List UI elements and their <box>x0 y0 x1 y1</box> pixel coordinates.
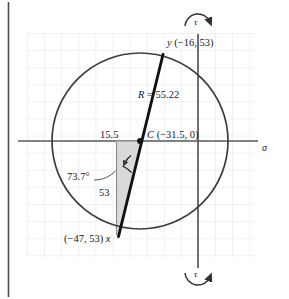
mohrs-circle-figure <box>0 0 289 299</box>
tau-label-top: τ <box>194 18 197 27</box>
angle-label: 73.7° <box>67 172 90 183</box>
radius-label: R = 55.22 <box>138 90 179 101</box>
tau-label-bottom: τ <box>194 270 197 279</box>
center-point <box>137 138 143 144</box>
tau-arrow-bottom <box>185 273 210 285</box>
sigma-axis-label: σ <box>262 143 267 153</box>
point-x-label: (−47, 53) x <box>64 234 110 245</box>
leg-horizontal-label: 15.5 <box>100 130 118 141</box>
leg-vertical-label: 53 <box>99 188 110 199</box>
center-label: C (−31.5, 0) <box>147 130 198 141</box>
tau-arrow-top <box>185 14 210 26</box>
point-y-label: y (−16, 53) <box>167 38 213 49</box>
figure-root: τ τ σ y (−16, 53) (−47, 53) x C (−31.5, … <box>0 0 289 299</box>
